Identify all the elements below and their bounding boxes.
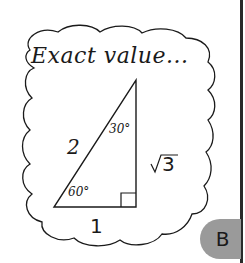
section-tab-b[interactable]: B bbox=[200, 219, 241, 259]
angle-60-label: 60° bbox=[68, 185, 89, 199]
tab-label: B bbox=[216, 227, 230, 251]
worksheet-panel: Exact value... 2 30° 60° 3 1 B bbox=[0, 0, 245, 263]
sqrt-value: 3 bbox=[162, 152, 175, 176]
right-angle-marker bbox=[121, 193, 136, 207]
base-label: 1 bbox=[90, 214, 103, 238]
vertical-side-label: 3 bbox=[150, 152, 175, 176]
hypotenuse-label: 2 bbox=[67, 135, 80, 159]
bubble-title: Exact value... bbox=[31, 43, 189, 68]
angle-30-label: 30° bbox=[109, 122, 130, 136]
